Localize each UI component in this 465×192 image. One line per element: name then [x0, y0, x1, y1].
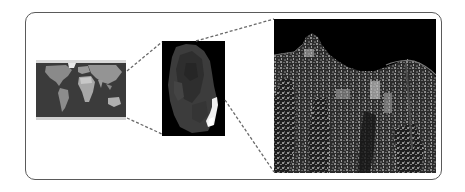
regional-view-image — [162, 41, 225, 136]
world-map-icon — [36, 60, 126, 120]
satellite-image-icon — [274, 19, 436, 173]
global-map-image — [36, 60, 126, 120]
region-map-icon — [162, 41, 225, 136]
satellite-scene-image — [274, 19, 436, 173]
zoom-diagram — [0, 0, 465, 192]
